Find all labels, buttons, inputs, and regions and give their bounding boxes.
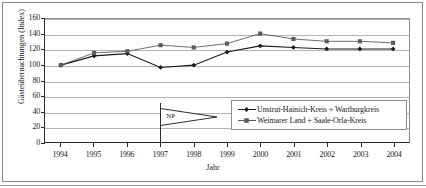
data-point-marker	[258, 44, 263, 49]
y-axis-tick-mark	[41, 127, 45, 128]
y-axis-tick-mark	[41, 49, 45, 50]
legend-marker-square-icon	[237, 115, 257, 126]
y-axis-tick-mark	[41, 112, 45, 113]
y-axis-title: Gästeübernachtungen (Index)	[17, 0, 26, 122]
x-axis-tick-mark	[93, 143, 94, 147]
data-point-marker	[358, 39, 362, 43]
y-axis-tick-label: 0	[18, 139, 40, 147]
y-axis-tick-mark	[41, 96, 45, 97]
legend-item-series2: Weimarer Land + Saale-Orla-Kreis	[237, 115, 401, 126]
data-point-marker	[391, 47, 396, 52]
page-bottom-rule	[0, 185, 426, 186]
data-point-marker	[357, 47, 362, 52]
data-point-marker	[192, 45, 196, 49]
x-axis-tick-mark	[160, 143, 161, 147]
x-axis-tick-mark	[60, 143, 61, 147]
x-axis-tick-mark	[260, 143, 261, 147]
legend-marker-diamond-icon	[237, 104, 257, 115]
y-axis-tick-mark	[41, 34, 45, 35]
x-axis-tick-mark	[127, 143, 128, 147]
chart-legend: Unstrut-Hainich-Kreis + Wartburgkreis We…	[231, 100, 407, 130]
data-point-marker	[258, 32, 262, 36]
data-point-marker	[225, 42, 229, 46]
data-point-marker	[158, 43, 162, 47]
data-point-marker	[92, 51, 96, 55]
data-point-marker	[391, 41, 395, 45]
x-axis-tick-mark	[294, 143, 295, 147]
y-axis-tick-mark	[41, 81, 45, 82]
x-axis-title: Jahr	[0, 163, 426, 172]
x-axis-tick-label: 2004	[374, 150, 414, 159]
chart-figure: 020406080100120140160 Gästeübernachtunge…	[0, 0, 426, 188]
legend-label-series1: Unstrut-Hainich-Kreis + Wartburgkreis	[257, 105, 379, 114]
y-axis-tick-mark	[41, 65, 45, 66]
data-point-marker	[59, 63, 63, 67]
legend-label-series2: Weimarer Land + Saale-Orla-Kreis	[257, 116, 366, 125]
x-axis-tick-mark	[361, 143, 362, 147]
y-axis-tick-label: 20	[18, 123, 40, 131]
series-line-1	[61, 46, 393, 68]
data-point-marker	[158, 65, 163, 70]
np-flag-label: NP	[166, 112, 175, 120]
y-axis-tick-mark	[41, 18, 45, 19]
x-axis-tick-mark	[394, 143, 395, 147]
data-point-marker	[324, 47, 329, 52]
x-axis-tick-mark	[227, 143, 228, 147]
data-point-marker	[225, 50, 230, 55]
x-axis-tick-mark	[194, 143, 195, 147]
data-point-marker	[325, 39, 329, 43]
y-axis-tick-mark	[41, 143, 45, 144]
data-point-marker	[291, 45, 296, 50]
data-point-marker	[191, 63, 196, 68]
np-flag-annotation: NP	[160, 103, 222, 143]
x-axis-tick-mark	[327, 143, 328, 147]
data-point-marker	[125, 49, 129, 53]
data-point-marker	[291, 37, 295, 41]
legend-item-series1: Unstrut-Hainich-Kreis + Wartburgkreis	[237, 104, 401, 115]
